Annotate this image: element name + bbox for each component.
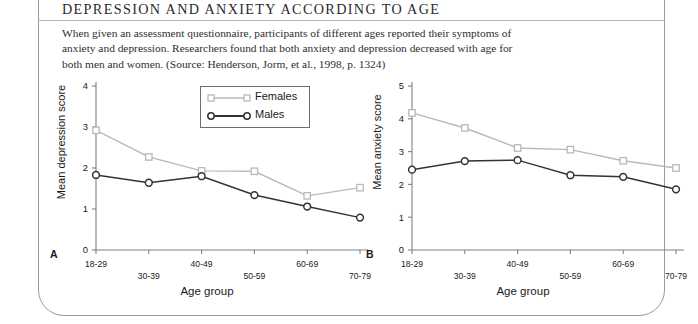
panel-b-anxiety: B Mean anxiety score 01234518-2930-3940-… — [358, 78, 688, 324]
svg-text:30-39: 30-39 — [138, 271, 160, 281]
svg-text:40-49: 40-49 — [507, 259, 529, 269]
svg-text:1: 1 — [399, 212, 404, 223]
legend-swatch-females-icon — [207, 90, 251, 106]
legend-entry-females: Females — [207, 90, 251, 106]
panel-b-x-axis-title: Age group — [408, 285, 638, 297]
svg-text:4: 4 — [83, 80, 88, 91]
svg-text:3: 3 — [399, 146, 404, 157]
svg-text:2: 2 — [83, 162, 88, 173]
svg-text:18-29: 18-29 — [85, 259, 107, 269]
svg-text:70-79: 70-79 — [665, 271, 687, 281]
svg-text:50-59: 50-59 — [559, 271, 581, 281]
svg-text:1: 1 — [83, 203, 88, 214]
svg-text:2: 2 — [399, 179, 404, 190]
svg-text:0: 0 — [399, 244, 404, 255]
svg-text:30-39: 30-39 — [454, 271, 476, 281]
svg-text:5: 5 — [399, 80, 404, 91]
svg-text:50-59: 50-59 — [243, 271, 265, 281]
svg-text:4: 4 — [399, 113, 404, 124]
panel-b-plot: 01234518-2930-3940-4950-5960-6970-79 — [358, 78, 688, 288]
legend-swatch-males-icon — [207, 108, 251, 124]
box-title: DEPRESSION AND ANXIETY ACCORDING TO AGE — [62, 1, 440, 18]
figure-area: A Mean depression score 0123418-2930-394… — [0, 78, 698, 324]
svg-text:60-69: 60-69 — [612, 259, 634, 269]
svg-text:0: 0 — [83, 244, 88, 255]
panel-a-x-axis-title: Age group — [92, 285, 322, 297]
legend-label-females: Females — [255, 90, 297, 102]
box-body-text: When given an assessment questionnaire, … — [62, 26, 532, 72]
chart-legend: Females Males — [200, 86, 310, 128]
svg-text:3: 3 — [83, 121, 88, 132]
title-divider — [38, 20, 665, 21]
legend-entry-males: Males — [207, 108, 251, 124]
svg-text:18-29: 18-29 — [401, 259, 423, 269]
svg-text:60-69: 60-69 — [296, 259, 318, 269]
svg-text:40-49: 40-49 — [191, 259, 213, 269]
legend-label-males: Males — [255, 108, 284, 120]
